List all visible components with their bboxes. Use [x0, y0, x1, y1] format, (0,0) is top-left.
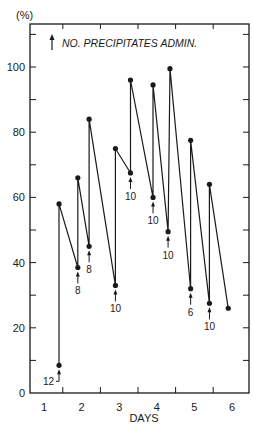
x-axis-title: DAYS — [129, 412, 158, 424]
arrowhead-icon — [57, 369, 61, 374]
data-point — [87, 244, 92, 249]
data-point — [167, 66, 172, 71]
arrowhead-icon — [189, 293, 193, 298]
y-tick-label: 100 — [7, 61, 25, 73]
annotation-label: 10 — [147, 215, 159, 226]
annotation-arrow: 10 — [204, 307, 216, 332]
data-point — [128, 77, 133, 82]
data-point — [207, 301, 212, 306]
legend: NO. PRECIPITATES ADMIN. — [50, 34, 198, 50]
x-tick-label: 1 — [41, 401, 47, 413]
y-tick-label: 0 — [19, 387, 25, 399]
data-point — [56, 201, 61, 206]
annotation-arrow: 10 — [147, 201, 159, 226]
data-point — [165, 229, 170, 234]
annotation-label: 10 — [163, 250, 175, 261]
data-point — [188, 138, 193, 143]
arrowhead-icon — [207, 307, 211, 312]
arrowhead-icon — [76, 271, 80, 276]
arrowhead-icon — [128, 177, 132, 182]
plot-border — [30, 24, 249, 393]
legend-text: NO. PRECIPITATES ADMIN. — [62, 37, 197, 49]
annotation-label: 6 — [188, 307, 194, 318]
y-tick-label: 40 — [13, 257, 25, 269]
series-line — [59, 69, 228, 366]
data-point — [87, 117, 92, 122]
y-tick-label: 60 — [13, 191, 25, 203]
data-point — [75, 175, 80, 180]
plot-frame — [30, 24, 249, 393]
data-point — [226, 306, 231, 311]
axis-ticks: 020406080100123456 — [7, 24, 249, 413]
annotation-label: 12 — [43, 376, 55, 387]
x-tick-label: 6 — [229, 401, 235, 413]
annotation-arrow: 12 — [43, 369, 61, 387]
x-tick-label: 3 — [116, 401, 122, 413]
data-point — [113, 283, 118, 288]
legend-arrowhead-icon — [50, 34, 55, 40]
annotation-arrow: 10 — [110, 289, 122, 314]
annotation-label: 10 — [204, 321, 216, 332]
x-tick-label: 2 — [79, 401, 85, 413]
y-tick-label: 20 — [13, 322, 25, 334]
data-point — [207, 182, 212, 187]
annotation-arrow: 8 — [86, 250, 92, 275]
arrowhead-icon — [166, 236, 170, 241]
arrowhead-icon — [113, 289, 117, 294]
data-point — [188, 286, 193, 291]
annotation-arrow: 6 — [188, 293, 194, 318]
data-point — [56, 363, 61, 368]
annotation-label: 10 — [110, 303, 122, 314]
y-tick-label: 80 — [13, 126, 25, 138]
annotation-label: 8 — [75, 285, 81, 296]
data-point — [75, 265, 80, 270]
annotation-label: 10 — [125, 191, 137, 202]
data-point — [128, 170, 133, 175]
line-chart: 020406080100123456 128810101010610 NO. P… — [0, 0, 253, 429]
annotation-arrow: 8 — [75, 271, 81, 296]
data-point — [113, 146, 118, 151]
annotation-label: 8 — [86, 264, 92, 275]
x-tick-label: 5 — [191, 401, 197, 413]
arrowhead-icon — [87, 250, 91, 255]
annotation-arrow: 10 — [163, 236, 175, 261]
data-point — [150, 195, 155, 200]
arrowhead-icon — [151, 201, 155, 206]
data-point — [150, 82, 155, 87]
annotation-arrow: 10 — [125, 177, 137, 202]
